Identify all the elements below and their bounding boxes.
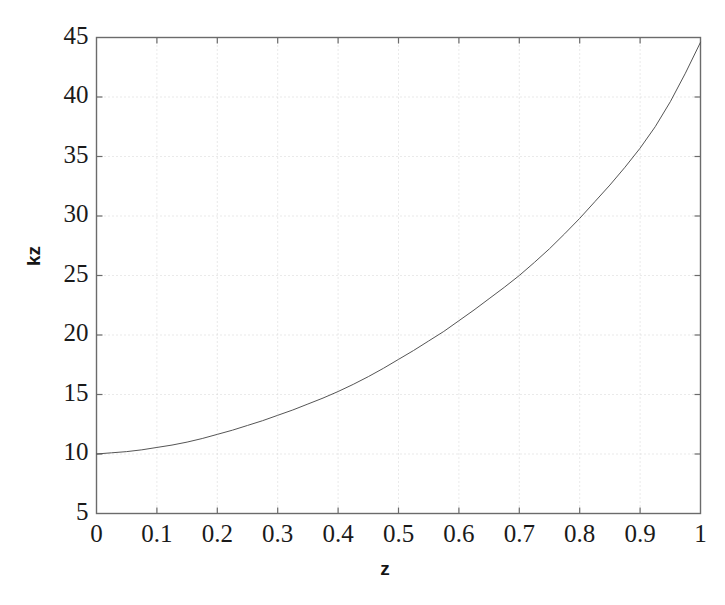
y-axis-tick-label: 40 <box>64 81 89 109</box>
y-axis-title: kz <box>23 236 45 276</box>
x-axis-tick-label: 0.3 <box>248 520 308 548</box>
y-axis-tick-label: 45 <box>64 22 89 50</box>
y-axis-tick-label: 15 <box>64 379 89 407</box>
y-axis-tick-label: 30 <box>64 200 89 228</box>
data-series-line-kz <box>97 42 701 454</box>
x-axis-tick-label: 0.2 <box>187 520 247 548</box>
x-axis-tick-label: 0.4 <box>308 520 368 548</box>
x-axis-tick-label: 0.7 <box>489 520 549 548</box>
x-axis-tick-label: 0.1 <box>127 520 187 548</box>
y-axis-tick-label: 20 <box>64 319 89 347</box>
x-axis-tick-label: 0.8 <box>550 520 610 548</box>
x-axis-tick-label: 0 <box>67 520 127 548</box>
figure-canvas: 51015202530354045 00.10.20.30.40.50.60.7… <box>0 0 725 605</box>
x-axis-tick-label: 0.6 <box>429 520 489 548</box>
x-axis-tick-label: 0.9 <box>610 520 670 548</box>
y-axis-tick-label: 35 <box>64 141 89 169</box>
y-axis-tick-label: 25 <box>64 260 89 288</box>
x-axis-tick-label: 0.5 <box>369 520 429 548</box>
y-axis-tick-label: 10 <box>64 438 89 466</box>
x-axis-tick-label: 1 <box>671 520 725 548</box>
x-axis-title: z <box>375 558 395 580</box>
chart-plot-area <box>0 0 725 605</box>
